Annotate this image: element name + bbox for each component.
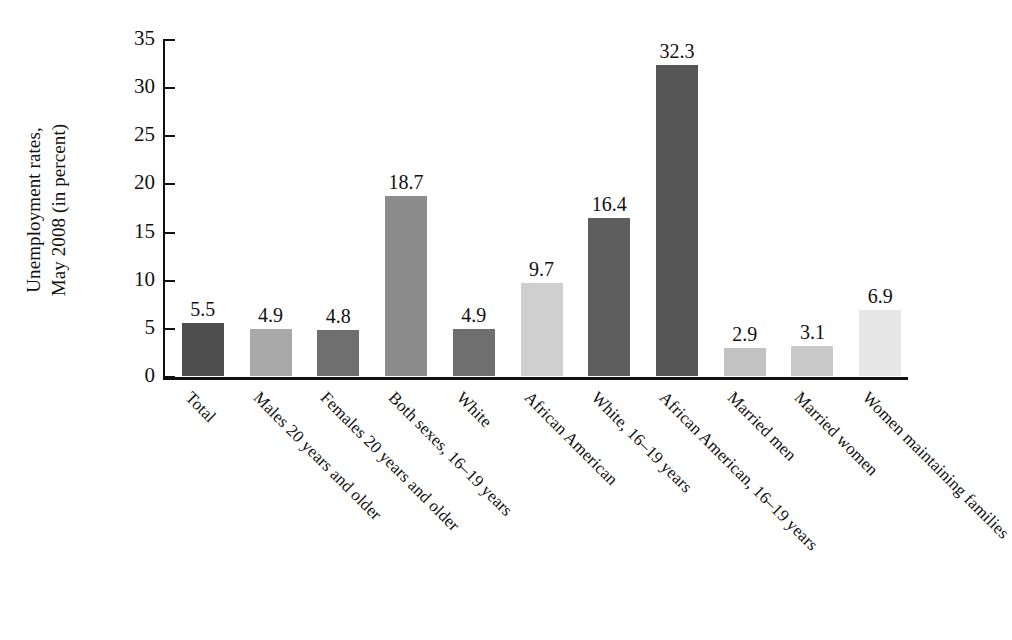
y-axis-tick-mark (163, 135, 175, 137)
bar-value-label: 2.9 (732, 324, 757, 345)
bar-value-label: 18.7 (389, 172, 424, 193)
x-axis-line (163, 377, 908, 380)
bar-value-label: 4.8 (326, 306, 351, 327)
bar-value-label: 6.9 (868, 286, 893, 307)
y-axis-tick-mark (163, 376, 175, 378)
bar: 4.9 (250, 329, 292, 376)
plot-area: 05101520253035 5.54.94.818.74.99.716.432… (163, 40, 908, 378)
bar: 2.9 (724, 348, 766, 376)
x-axis-category-label: Both sexes, 16–19 years (385, 388, 517, 520)
y-axis-tick-label: 35 (105, 27, 155, 49)
y-axis-tick-label: 30 (105, 75, 155, 97)
x-axis-category-label: Females 20 years and older (317, 388, 464, 535)
x-axis-category-label: Males 20 years and older (249, 388, 385, 524)
bar-value-label: 9.7 (529, 259, 554, 280)
y-axis-tick-label: 15 (105, 220, 155, 242)
y-axis-tick-mark (163, 280, 175, 282)
bar-value-label: 5.5 (190, 299, 215, 320)
bar: 18.7 (385, 196, 427, 376)
y-axis-tick-label: 0 (105, 364, 155, 386)
bar: 32.3 (656, 65, 698, 376)
y-axis-tick-label: 10 (105, 268, 155, 290)
y-axis-tick-label: 20 (105, 171, 155, 193)
bar-value-label: 4.9 (461, 305, 486, 326)
y-axis-title-text: Unemployment rates, May 2008 (in percent… (21, 124, 71, 297)
bar: 3.1 (791, 346, 833, 376)
x-axis-category-label: White (452, 388, 495, 431)
bar: 5.5 (182, 323, 224, 376)
bar-value-label: 16.4 (592, 194, 627, 215)
y-axis-tick-mark (163, 183, 175, 185)
bar: 16.4 (588, 218, 630, 376)
bar: 9.7 (521, 283, 563, 376)
y-axis-tick-label: 25 (105, 123, 155, 145)
bar-value-label: 4.9 (258, 305, 283, 326)
bar-value-label: 32.3 (659, 41, 694, 62)
y-axis-tick-label: 5 (105, 316, 155, 338)
bar: 4.8 (317, 330, 359, 376)
bar-value-label: 3.1 (800, 322, 825, 343)
bar: 4.9 (453, 329, 495, 376)
y-axis-tick-mark (163, 39, 175, 41)
y-axis-tick-mark (163, 87, 175, 89)
y-axis-title: Unemployment rates, May 2008 (in percent… (14, 60, 78, 360)
y-axis-tick-mark (163, 328, 175, 330)
y-axis-tick-mark (163, 232, 175, 234)
x-axis-category-label: Total (181, 388, 219, 426)
bar: 6.9 (859, 310, 901, 376)
y-axis-title-line-1: Unemployment rates, (23, 127, 44, 292)
y-axis-title-line-2: May 2008 (in percent) (46, 124, 71, 297)
